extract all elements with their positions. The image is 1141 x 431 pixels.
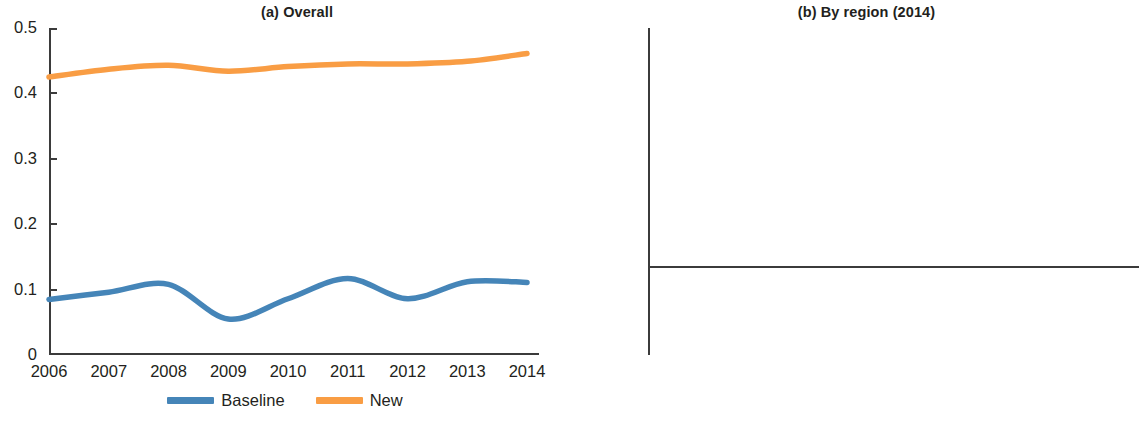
panel-a-x-tick-label: 2009	[198, 362, 258, 380]
panel-a-y-tick-label: 0.4	[0, 84, 37, 100]
panel-a-series-new	[49, 54, 527, 78]
panel-a-legend-swatch-baseline-icon	[167, 397, 214, 404]
panel-a-x-tick-label: 2010	[258, 362, 318, 380]
panel-b-y-axis	[648, 28, 650, 355]
panel-a-y-tick-label: 0.5	[0, 19, 37, 35]
panel-a-x-tick-label: 2006	[19, 362, 79, 380]
panel-a-x-tick-label: 2008	[139, 362, 199, 380]
panel-a-legend-label: Baseline	[221, 392, 284, 409]
panel-a-y-tick-label: 0.1	[0, 281, 37, 297]
panel-a-legend-swatch-new-icon	[316, 397, 363, 404]
panel-a-legend: BaselineNew	[0, 392, 570, 409]
panel-a-x-tick-label: 2013	[437, 362, 497, 380]
panel-b-by-region: (b) By region (2014) -0.4-0.20.00.20.40.…	[570, 0, 1141, 431]
panel-a-legend-entry-baseline: Baseline	[167, 392, 284, 409]
panel-a-x-tick-label: 2014	[497, 362, 557, 380]
panel-a-x-tick-label: 2012	[378, 362, 438, 380]
panel-a-title: (a) Overall	[0, 4, 570, 20]
panel-a-legend-label: New	[370, 392, 403, 409]
panel-b-title: (b) By region (2014)	[570, 4, 1141, 20]
panel-a-overall: (a) Overall 00.10.20.30.40.5 20062007200…	[0, 0, 570, 431]
panel-a-y-tick-label: 0.2	[0, 215, 37, 231]
panel-a-x-tick-label: 2011	[318, 362, 378, 380]
panel-a-x-tick-label: 2007	[79, 362, 139, 380]
figure-two-panel-chart: (a) Overall 00.10.20.30.40.5 20062007200…	[0, 0, 1141, 431]
panel-b-zero-line	[648, 266, 1139, 268]
panel-a-legend-entry-new: New	[316, 392, 403, 409]
panel-a-y-tick-label: 0	[0, 346, 37, 362]
panel-a-y-tick-label: 0.3	[0, 150, 37, 166]
panel-a-series-baseline	[49, 278, 527, 319]
panel-a-line-plot	[49, 28, 527, 355]
